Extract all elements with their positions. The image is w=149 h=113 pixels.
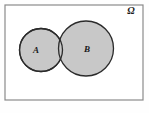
- set-label-a: A: [32, 45, 39, 55]
- venn-diagram-figure: Ω A B: [0, 0, 149, 113]
- universe-label: Ω: [127, 5, 135, 16]
- venn-diagram-canvas: Ω A B: [0, 0, 149, 113]
- set-label-b: B: [83, 44, 90, 54]
